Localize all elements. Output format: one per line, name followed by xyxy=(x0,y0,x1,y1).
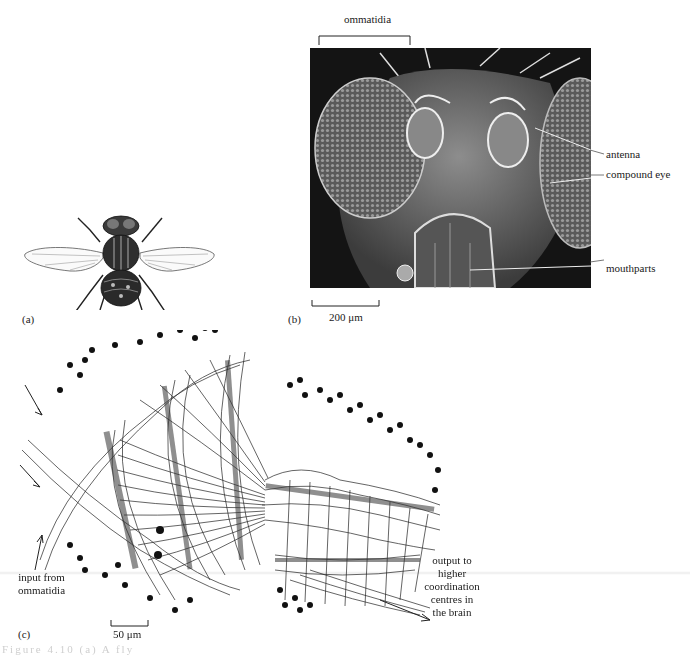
output-label-line-5: the brain xyxy=(418,606,486,619)
output-label-line-4: centres in xyxy=(418,593,486,606)
label-leaders xyxy=(590,140,606,280)
output-label-line-1: output to xyxy=(418,554,486,567)
figure-caption: Figure 4.10 (a) A fly xyxy=(2,643,134,655)
right-wing xyxy=(140,247,214,271)
fly-abdomen xyxy=(101,270,141,306)
input-arrow-3 xyxy=(37,535,43,543)
antenna-left xyxy=(407,108,443,158)
input-label-line-2: ommatidia xyxy=(18,584,65,597)
mouthparts-label: mouthparts xyxy=(606,262,656,275)
optic-lobe-diagram xyxy=(0,330,480,630)
scan-artifact xyxy=(0,571,690,575)
ommatidia-label: ommatidia xyxy=(344,13,391,26)
fly-illustration xyxy=(0,150,260,310)
panel-c-letter: (c) xyxy=(18,628,30,641)
panel-a xyxy=(0,150,260,310)
scale-bar-50 xyxy=(110,620,150,628)
ommatidia-bracket xyxy=(318,34,412,46)
antenna-right xyxy=(488,113,528,167)
panel-b-letter: (b) xyxy=(288,313,301,326)
input-arrow-1 xyxy=(35,408,42,415)
panel-a-letter: (a) xyxy=(22,313,34,326)
compound-eye-label: compound eye xyxy=(606,168,670,181)
antenna-label: antenna xyxy=(606,148,640,161)
output-label: output to higher coordination centres in… xyxy=(418,554,486,619)
scale-bar-200-label: 200 μm xyxy=(329,311,363,324)
output-label-line-3: coordination xyxy=(418,580,486,593)
scale-bar-200 xyxy=(311,300,381,308)
left-wing xyxy=(25,247,103,271)
scale-bar-50-label: 50 μm xyxy=(113,628,141,641)
palp xyxy=(397,265,413,281)
proboscis xyxy=(415,214,495,288)
sem-micrograph xyxy=(310,48,591,288)
compound-eye-left xyxy=(315,78,425,218)
